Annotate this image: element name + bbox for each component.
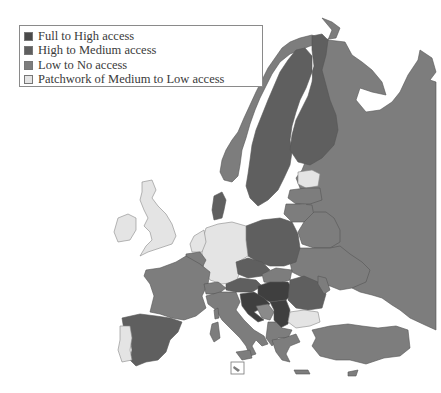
country-corsica <box>214 308 219 319</box>
malta-inset-box <box>231 362 244 374</box>
legend-swatch-full-to-high <box>24 32 33 41</box>
country-crete <box>294 370 310 374</box>
legend-swatch-high-to-medium <box>24 46 33 55</box>
country-ireland <box>114 214 136 242</box>
legend-item-patchwork: Patchwork of Medium to Low access <box>24 73 262 88</box>
country-netherlands <box>190 230 206 252</box>
country-portugal <box>118 326 132 362</box>
country-latvia <box>288 188 322 204</box>
country-turkey <box>312 324 410 364</box>
legend-swatch-low-to-no <box>24 61 33 70</box>
country-bulgaria <box>288 310 320 328</box>
legend-label: High to Medium access <box>38 43 156 58</box>
country-cyprus <box>348 370 358 376</box>
legend-item-full-to-high: Full to High access <box>24 29 262 44</box>
country-united-kingdom <box>140 180 176 256</box>
country-france <box>144 256 210 320</box>
legend-label: Low to No access <box>38 58 127 73</box>
country-sicily <box>236 350 252 360</box>
legend-label: Patchwork of Medium to Low access <box>38 72 224 87</box>
legend-swatch-patchwork <box>24 75 33 84</box>
map-legend: Full to High access High to Medium acces… <box>19 25 263 87</box>
legend-item-high-to-medium: High to Medium access <box>24 44 262 59</box>
country-sardinia <box>210 322 220 342</box>
legend-item-low-to-no: Low to No access <box>24 58 262 73</box>
country-estonia <box>298 170 320 188</box>
country-denmark <box>212 192 226 220</box>
country-poland <box>244 218 300 266</box>
legend-label: Full to High access <box>38 29 134 44</box>
